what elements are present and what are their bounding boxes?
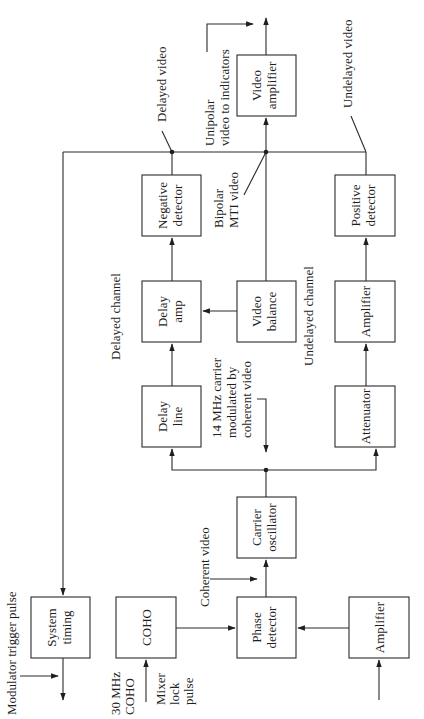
unipolar-video-annotation-1: Unipolar [202, 99, 217, 146]
positive-detector-label-2: detector [363, 184, 378, 227]
mixer-lock-annotation-2: lock [167, 682, 182, 705]
delay-line-label-1: Delay [155, 400, 170, 432]
mixer-lock-annotation-1: Mixer [153, 673, 168, 705]
block-delay-amp: Delay amp [142, 281, 201, 342]
block-video-amplifier: Video amplifier [237, 55, 296, 116]
phase-detector-label-2: detector [264, 606, 279, 649]
negative-detector-label-1: Negative [155, 182, 170, 229]
bipolar-mti-annotation-2: MTI video [226, 172, 241, 228]
block-system-timing: System timing [31, 597, 90, 658]
bipolar-mti-annotation-1: Bipolar [211, 188, 226, 228]
delayed-video-annotation: Delayed video [154, 47, 169, 122]
block-amplifier-input: Amplifier [349, 597, 409, 658]
negative-detector-label-2: detector [170, 184, 185, 227]
system-timing-label-2: timing [59, 610, 74, 644]
split-to-delay-line [172, 449, 266, 470]
block-negative-detector: Negative detector [142, 175, 201, 236]
coherent-video-annotation: Coherent video [197, 527, 212, 607]
carrier-oscillator-label-1: Carrier [249, 508, 264, 545]
undelayed-video-annotation: Undelayed video [340, 20, 355, 108]
undelayed-channel-annotation: Undelayed channel [301, 266, 316, 366]
undelayed-video-leader [351, 116, 366, 152]
amplifier-undelayed-label: Amplifier [358, 285, 373, 337]
junction-dot-carrier [264, 468, 269, 473]
junction-dot-delayed [170, 150, 175, 155]
block-amplifier-undelayed: Amplifier [335, 281, 395, 342]
coho-label: COHO [139, 609, 154, 646]
carrier-note-annotation-1: 14 MHz carrier [209, 357, 224, 438]
delayed-channel-annotation: Delayed channel [108, 273, 123, 360]
coho-30mhz-annotation-1: 30 MHz [108, 672, 123, 715]
junction-dot-mti [264, 150, 269, 155]
mti-radar-block-diagram: Video amplifier Negative detector Positi… [0, 0, 424, 719]
block-video-balance: Video balance [237, 281, 296, 342]
video-balance-label-2: balance [264, 291, 279, 331]
block-attenuator: Attenuator [335, 386, 395, 447]
coho-30mhz-annotation-2: COHO [122, 678, 137, 715]
bipolar-mti-leader [244, 152, 266, 195]
system-timing-label-1: System [44, 608, 59, 646]
delayed-video-leader [162, 131, 172, 152]
carrier-note-annotation-2: modulated by [224, 366, 239, 438]
delay-amp-label-1: Delay [155, 295, 170, 327]
unipolar-video-annotation-2: video to indicators [217, 49, 232, 146]
block-coho: COHO [116, 597, 176, 658]
carrier-note-annotation-3: coherent video [239, 361, 254, 438]
split-to-attenuator [266, 449, 376, 470]
video-amplifier-label-1: Video [249, 70, 264, 101]
phase-detector-label-1: Phase [249, 612, 264, 643]
delay-line-label-2: line [170, 407, 185, 427]
carrier-oscillator-label-2: oscillator [264, 503, 279, 552]
block-carrier-oscillator: Carrier oscillator [237, 497, 296, 558]
modulator-trigger-annotation: Modulator trigger pulse [4, 591, 19, 715]
video-balance-label-1: Video [249, 296, 264, 327]
block-phase-detector: Phase detector [237, 597, 296, 658]
block-delay-line: Delay line [142, 386, 201, 447]
mixer-lock-annotation-3: pulse [181, 677, 196, 705]
positive-detector-label-1: Positive [348, 184, 363, 226]
attenuator-label: Attenuator [358, 388, 373, 444]
carrier-note-leader [257, 399, 266, 452]
delay-amp-label-2: amp [170, 300, 185, 322]
video-amplifier-label-2: amplifier [264, 61, 279, 109]
block-positive-detector: Positive detector [335, 175, 395, 236]
unipolar-output-arrow [207, 24, 253, 52]
amplifier-input-label: Amplifier [372, 601, 387, 653]
